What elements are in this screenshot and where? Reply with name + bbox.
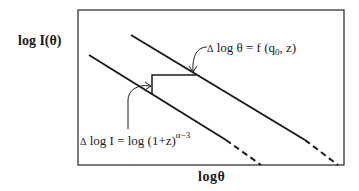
lower-line-solid <box>89 55 226 140</box>
y-axis-label: log I(θ) <box>18 33 61 49</box>
upper-line-dashed <box>305 140 338 165</box>
shift-text: log θ = f (q <box>213 40 275 55</box>
dimming-text: log I = log (1+z) <box>86 133 175 148</box>
dimming-annotation: Δ log I = log (1+z)α−3 <box>80 130 190 149</box>
diagram-canvas <box>0 0 359 191</box>
shift-annotation: Δ log θ = f (q0, z) <box>207 40 296 57</box>
x-axis-label: logθ <box>198 169 225 185</box>
step-bracket <box>152 75 196 94</box>
dimming-arrow <box>128 86 150 129</box>
dimming-exponent: α−3 <box>176 130 190 140</box>
shift-tail: , z) <box>280 40 297 55</box>
shift-arrow <box>193 47 207 71</box>
lower-line-dashed <box>226 140 261 165</box>
